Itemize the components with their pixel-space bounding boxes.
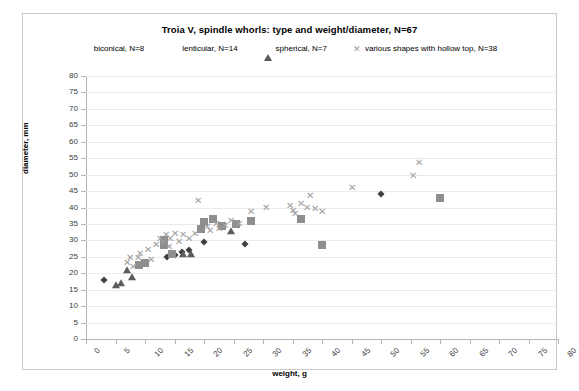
gridline (86, 306, 558, 307)
data-point: ✕ (191, 229, 199, 239)
legend-item-biconical[interactable]: biconical, N=8 (82, 44, 144, 53)
legend-item-lenticular[interactable]: lenticular, N=14 (170, 44, 237, 53)
gridline (86, 290, 558, 291)
y-tick-label: 60 (38, 137, 78, 146)
y-tick-label: 40 (38, 203, 78, 212)
data-point: ✕ (227, 216, 235, 226)
data-point (318, 241, 326, 249)
legend-label-biconical: biconical, N=8 (94, 44, 144, 53)
gridline (86, 109, 558, 110)
x-tick-label: 25 (241, 346, 254, 359)
chart-container: Troia V, spindle whorls: type and weight… (22, 13, 557, 370)
data-point: ✕ (415, 158, 423, 168)
data-point (436, 194, 444, 202)
x-tick (263, 339, 264, 344)
data-point: ✕ (194, 196, 202, 206)
gridline (86, 158, 558, 159)
data-point: ✕ (348, 183, 356, 193)
data-point (100, 276, 107, 283)
x-tick (204, 339, 205, 344)
x-axis-title: weight, g (23, 369, 556, 378)
y-tick-label: 20 (38, 268, 78, 277)
data-point (128, 273, 136, 280)
y-tick-label: 80 (38, 71, 78, 80)
x-tick (381, 339, 382, 344)
x-tick (440, 339, 441, 344)
data-point: ✕ (235, 219, 243, 229)
y-tick-label: 25 (38, 252, 78, 261)
data-point: ✕ (409, 171, 417, 181)
data-point: ✕ (318, 207, 326, 217)
x-tick (293, 339, 294, 344)
x-tick-label: 5 (122, 346, 132, 356)
y-tick-label: 45 (38, 186, 78, 195)
x-tick-label: 15 (182, 346, 195, 359)
plot-area: ✕✕✕✕✕✕✕✕✕✕✕✕✕✕✕✕✕✕✕✕✕✕✕✕✕✕✕✕✕✕✕✕✕✕✕✕✕✕✕ (86, 76, 558, 339)
x-tick-label: 60 (448, 346, 461, 359)
gridline (86, 273, 558, 274)
data-point (247, 217, 255, 225)
legend-item-hollow-top[interactable]: ✕ various shapes with hollow top, N=38 (353, 44, 497, 53)
cross-marker-icon: ✕ (353, 45, 361, 53)
x-tick (529, 339, 530, 344)
x-tick-label: 10 (153, 346, 166, 359)
square-marker-icon (170, 45, 178, 53)
x-tick-label: 80 (566, 346, 579, 359)
data-point: ✕ (247, 207, 255, 217)
y-tick-label: 15 (38, 285, 78, 294)
y-tick-label: 0 (38, 334, 78, 343)
triangle-marker-icon (264, 45, 272, 53)
legend-item-spherical[interactable]: spherical, N=7 (264, 44, 327, 53)
x-tick-label: 35 (300, 346, 313, 359)
gridline (86, 175, 558, 176)
y-tick-label: 5 (38, 318, 78, 327)
x-tick (116, 339, 117, 344)
data-point (187, 250, 195, 257)
x-tick (470, 339, 471, 344)
gridline (86, 191, 558, 192)
x-tick-label: 0 (92, 346, 102, 356)
x-tick (86, 339, 87, 344)
x-tick-label: 45 (359, 346, 372, 359)
x-tick-label: 40 (330, 346, 343, 359)
y-tick-label: 65 (38, 120, 78, 129)
y-tick-label: 55 (38, 153, 78, 162)
x-tick (411, 339, 412, 344)
x-tick (352, 339, 353, 344)
gridline (86, 224, 558, 225)
x-tick-label: 30 (271, 346, 284, 359)
legend-label-spherical: spherical, N=7 (276, 44, 327, 53)
x-tick-label: 20 (212, 346, 225, 359)
data-point (117, 279, 125, 286)
chart-legend: biconical, N=8 lenticular, N=14 spherica… (23, 44, 556, 53)
legend-label-hollow-top: various shapes with hollow top, N=38 (365, 44, 497, 53)
y-tick-label: 50 (38, 170, 78, 179)
legend-label-lenticular: lenticular, N=14 (182, 44, 237, 53)
gridline (86, 125, 558, 126)
gridline (86, 142, 558, 143)
data-point: ✕ (262, 203, 270, 213)
chart-title: Troia V, spindle whorls: type and weight… (23, 24, 556, 35)
x-tick-label: 55 (418, 346, 431, 359)
x-tick (175, 339, 176, 344)
diamond-marker-icon (82, 45, 90, 53)
gridline (86, 92, 558, 93)
gridline (86, 323, 558, 324)
x-tick-label: 50 (389, 346, 402, 359)
y-axis-title: diameter, mm (21, 122, 30, 174)
x-tick-label: 75 (536, 346, 549, 359)
y-tick-label: 10 (38, 301, 78, 310)
y-tick-label: 30 (38, 235, 78, 244)
data-point: ✕ (306, 191, 314, 201)
data-point: ✕ (147, 255, 155, 265)
x-tick (145, 339, 146, 344)
x-tick-label: 70 (507, 346, 520, 359)
x-tick (322, 339, 323, 344)
y-tick-label: 35 (38, 219, 78, 228)
data-point: ✕ (291, 209, 299, 219)
x-tick (234, 339, 235, 344)
y-tick-label: 70 (38, 104, 78, 113)
x-tick (558, 339, 559, 344)
gridline (86, 76, 558, 77)
x-tick-label: 65 (477, 346, 490, 359)
